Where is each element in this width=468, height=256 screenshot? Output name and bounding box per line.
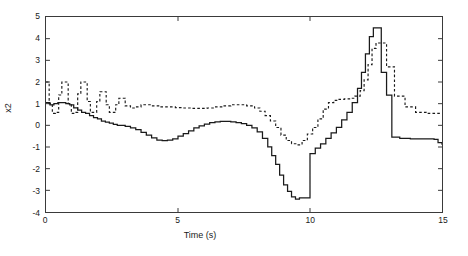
x-axis-label-text: Time (s)	[184, 230, 217, 240]
series-line-solid	[46, 28, 442, 199]
y-tick-label: 0	[35, 121, 40, 130]
y-tick-label: 1	[35, 99, 40, 108]
x-tick-label: 15	[438, 216, 447, 225]
chart-svg	[46, 17, 442, 212]
y-tick-label: -4	[32, 209, 40, 218]
series-line-dashed	[46, 43, 442, 145]
x-tick-label: 5	[175, 216, 180, 225]
y-tick-label: -1	[32, 143, 40, 152]
y-tick-label: -3	[32, 187, 40, 196]
y-tick-label: -2	[32, 165, 40, 174]
y-axis-tick-labels: 5 4 3 2 1 0 -1 -2 -3 -4	[22, 16, 40, 213]
axis-ticks	[46, 17, 442, 212]
x-tick-label: 0	[43, 216, 48, 225]
plot-area	[45, 16, 443, 213]
y-tick-label: 2	[35, 77, 40, 86]
y-tick-label: 5	[35, 12, 40, 21]
x-axis-label: Time (s)	[0, 230, 468, 240]
figure: 5 4 3 2 1 0 -1 -2 -3 -4 x2 0 5 10 15 Tim…	[0, 0, 468, 256]
y-axis-label: x2	[3, 103, 13, 113]
y-tick-label: 4	[35, 34, 40, 43]
x-tick-label: 10	[306, 216, 315, 225]
y-tick-label: 3	[35, 56, 40, 65]
